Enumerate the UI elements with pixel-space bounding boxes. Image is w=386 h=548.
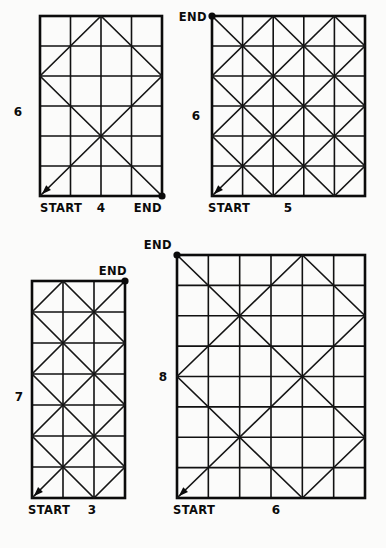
figure-4-end-label: END <box>144 238 172 252</box>
figure-2-height-label: 6 <box>192 109 200 123</box>
figure-2-end-label: END <box>179 10 207 24</box>
figure-1-height-label: 6 <box>14 105 22 119</box>
figure-1-start-label: START <box>40 201 82 215</box>
figure-2-grid <box>212 16 365 196</box>
figure-1-width-label: 4 <box>97 201 105 215</box>
figure-3-height-label: 7 <box>15 390 23 404</box>
diagram-canvas: STARTEND46STARTEND56STARTEND37STARTEND68 <box>0 0 386 548</box>
figure-3: STARTEND37 <box>15 264 129 517</box>
figure-1: STARTEND46 <box>14 16 166 215</box>
figure-4: STARTEND68 <box>144 238 365 517</box>
figure-2: STARTEND56 <box>179 10 365 215</box>
figure-4-end-dot <box>173 251 180 258</box>
figure-4-height-label: 8 <box>159 370 167 384</box>
figure-4-width-label: 6 <box>272 503 280 517</box>
figure-3-width-label: 3 <box>88 503 96 517</box>
figure-2-start-label: START <box>208 201 250 215</box>
figure-1-end-dot <box>158 192 165 199</box>
figure-1-grid <box>40 16 162 196</box>
figure-3-end-label: END <box>99 264 127 278</box>
billiard-grids-figure: STARTEND46STARTEND56STARTEND37STARTEND68 <box>0 0 386 548</box>
figure-4-start-label: START <box>173 503 215 517</box>
figure-2-width-label: 5 <box>284 201 292 215</box>
figure-2-end-dot <box>208 12 215 19</box>
figure-3-end-dot <box>121 277 128 284</box>
figure-3-start-label: START <box>28 503 70 517</box>
figure-1-end-label: END <box>134 201 162 215</box>
figure-4-grid <box>177 255 365 498</box>
figure-3-reflection-path <box>32 281 125 498</box>
